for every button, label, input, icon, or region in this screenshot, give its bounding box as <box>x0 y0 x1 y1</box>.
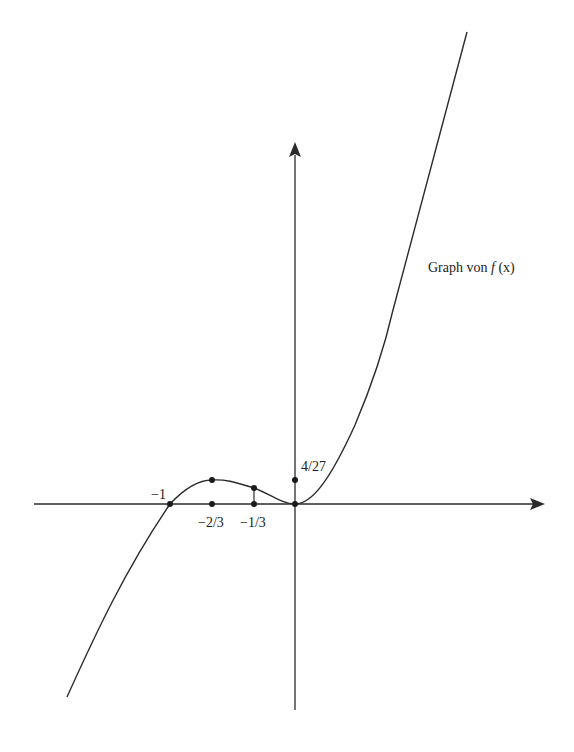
graph-label-args: (x) <box>495 260 515 276</box>
point-zero-minus-one <box>167 501 173 507</box>
point-inflection <box>251 485 257 491</box>
point-origin <box>292 501 298 507</box>
point-axis-minus-one-third <box>251 501 257 507</box>
point-y-four-27 <box>292 477 298 483</box>
point-local-maximum <box>209 477 215 483</box>
y-axis <box>289 142 301 710</box>
label-minus-one-third: −1/3 <box>240 515 266 530</box>
graph-label: Graph von f (x) <box>428 260 515 276</box>
curve-f <box>67 32 467 697</box>
label-four-27: 4/27 <box>301 459 326 474</box>
label-minus-one: −1 <box>151 487 166 502</box>
label-minus-two-thirds: −2/3 <box>198 515 224 530</box>
graph-label-prefix: Graph von <box>428 260 491 275</box>
point-axis-minus-two-thirds <box>209 501 215 507</box>
y-axis-arrow-icon <box>289 142 301 157</box>
function-graph: −1 −2/3 −1/3 4/27 Graph von f (x) <box>0 0 574 752</box>
